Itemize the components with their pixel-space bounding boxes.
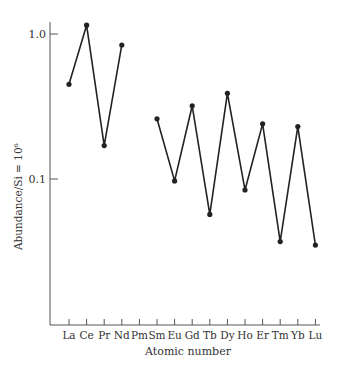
x-axis-label: Atomic number [144,345,232,358]
data-point [242,187,247,192]
x-tick-label: La [62,329,75,341]
data-point [260,121,265,126]
x-tick-label: Nd [114,329,130,341]
data-point [172,178,177,183]
data-point [295,124,300,129]
x-tick-label: Pr [98,329,111,341]
data-series [66,23,318,248]
x-tick-label: Ho [237,329,252,341]
data-point [84,23,89,28]
x-tick-label: Gd [185,329,200,341]
data-point [102,143,107,148]
x-tick-label: Ce [79,329,93,341]
data-point [154,116,159,121]
y-axis-label: Abundance/Si = 10⁶ [12,143,24,251]
x-tick-label: Eu [167,329,182,341]
y-ticks: 1.00.1 [29,28,59,186]
data-point [207,212,212,217]
x-tick-label: Pm [131,329,148,341]
data-point [119,42,124,47]
y-tick-label: 1.0 [29,28,47,41]
x-tick-label: Yb [290,329,305,341]
x-ticks: LaCePrNdPmSmEuGdTbDyHoErTmYbLu [62,319,322,341]
x-tick-label: Sm [148,329,165,341]
axes [50,22,320,325]
data-point [66,82,71,87]
x-tick-label: Tb [203,329,217,341]
y-tick-label: 0.1 [29,173,47,186]
data-point [278,239,283,244]
data-point [190,103,195,108]
x-tick-label: Dy [220,329,234,341]
chart: 1.00.1 LaCePrNdPmSmEuGdTbDyHoErTmYbLu At… [0,0,337,370]
data-point [313,243,318,248]
x-tick-label: Tm [272,329,289,341]
x-tick-label: Lu [309,329,323,341]
x-tick-label: Er [256,329,270,341]
data-point [225,91,230,96]
